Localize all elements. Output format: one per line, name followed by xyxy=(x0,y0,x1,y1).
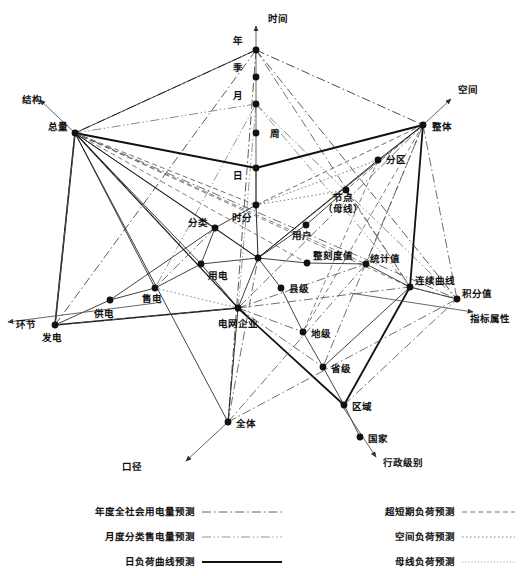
node-xianji[interactable] xyxy=(278,285,285,292)
diagram-edge xyxy=(215,228,258,258)
node-zongliang[interactable] xyxy=(72,130,79,137)
diagram-edge xyxy=(344,299,457,405)
node-label-zhengti: 整体 xyxy=(431,121,452,132)
diagram-edge xyxy=(256,50,457,299)
node-zhengkedu[interactable] xyxy=(304,260,311,267)
diagram-edge xyxy=(410,125,423,287)
node-label-yongdian: 用电 xyxy=(207,270,228,281)
diagram-edge xyxy=(307,263,366,264)
node-fadian[interactable] xyxy=(52,322,59,329)
diagram-edge xyxy=(55,308,238,325)
node-label-zhou: 周 xyxy=(270,129,280,139)
diagram-edge xyxy=(228,50,256,422)
axis-label-time: 时间 xyxy=(268,13,288,24)
node-label-shengji: 省级 xyxy=(330,363,351,374)
node-label-jiedian-sub: （母线） xyxy=(323,203,363,214)
node-shengji[interactable] xyxy=(320,364,327,371)
node-label-zhengkedu: 整刻度值 xyxy=(312,250,353,261)
legend-label-0-1: 月度分类售电量预测 xyxy=(104,531,195,542)
diagram-edge xyxy=(258,258,281,288)
diagram-edge xyxy=(75,50,256,133)
node-yue[interactable] xyxy=(253,101,260,108)
node-label-zongliang: 总量 xyxy=(48,121,68,132)
diagram-edge xyxy=(75,133,201,264)
node-ji[interactable] xyxy=(253,74,260,81)
node-label-dianwang: 电网企业 xyxy=(218,318,258,329)
node-fenlei[interactable] xyxy=(212,225,219,232)
diagram-edge xyxy=(423,125,457,299)
diagram-edge xyxy=(281,288,303,332)
legend-label-0-0: 年度全社会用电量预测 xyxy=(95,506,195,517)
diagram-edge xyxy=(256,160,378,205)
network-diagram: 时间结构空间环节指标属性口径行政级别年季月周日时分总量整体分区节点（母线）用户分… xyxy=(0,0,525,576)
diagram-edge xyxy=(75,133,228,422)
node-label-shoudian: 售电 xyxy=(142,293,162,304)
diagram-edge xyxy=(256,104,457,299)
node-yongdian[interactable] xyxy=(198,261,205,268)
diagram-edge xyxy=(344,287,410,405)
node-label-jifen: 积分值 xyxy=(462,288,492,299)
legend-label-1-1: 空间负荷预测 xyxy=(395,531,455,542)
node-shoudian[interactable] xyxy=(152,285,159,292)
nodes-layer xyxy=(52,47,461,441)
node-label-tongji: 统计值 xyxy=(370,253,400,264)
axis-label-structure: 结构 xyxy=(21,94,42,105)
node-label-ji: 季 xyxy=(232,62,243,73)
legend-label-1-2: 母线负荷预测 xyxy=(395,556,455,567)
node-label-quanti: 全体 xyxy=(235,418,256,429)
node-guojia[interactable] xyxy=(357,434,364,441)
node-diji[interactable] xyxy=(300,329,307,336)
node-label-ri: 日 xyxy=(233,171,243,181)
node-label-xianji: 县级 xyxy=(289,283,309,294)
node-label-fenlei: 分类 xyxy=(188,217,208,228)
legend-layer: 年度全社会用电量预测月度分类售电量预测日负荷曲线预测超短期负荷预测空间负荷预测母… xyxy=(95,506,515,567)
node-label-yue: 月 xyxy=(232,91,243,101)
node-dianwang[interactable] xyxy=(235,305,242,312)
node-label-diji: 地级 xyxy=(311,328,331,339)
node-label-fadian: 发电 xyxy=(41,332,62,343)
node-hub[interactable] xyxy=(255,255,262,262)
node-fenqu[interactable] xyxy=(375,157,382,164)
diagram-edge xyxy=(256,50,423,125)
node-zhengti[interactable] xyxy=(420,122,427,129)
node-nian[interactable] xyxy=(253,47,260,54)
node-yonghu[interactable] xyxy=(303,222,310,229)
figure-root: 时间结构空间环节指标属性口径行政级别年季月周日时分总量整体分区节点（母线）用户分… xyxy=(0,0,525,576)
node-shifen[interactable] xyxy=(253,202,260,209)
legend-label-1-0: 超短期负荷预测 xyxy=(384,506,455,517)
node-quyu[interactable] xyxy=(341,402,348,409)
axis-label-admin: 行政级别 xyxy=(382,457,423,468)
diagram-edge xyxy=(228,258,258,422)
node-jifen[interactable] xyxy=(454,296,461,303)
diagram-edge xyxy=(155,228,215,288)
diagram-edge xyxy=(238,258,258,308)
node-gongdian[interactable] xyxy=(107,297,114,304)
diagram-edge xyxy=(75,104,256,133)
diagram-edge xyxy=(238,287,410,308)
diagram-edge xyxy=(366,264,410,287)
node-label-jiedian: 节点 xyxy=(333,192,353,203)
node-label-yonghu: 用户 xyxy=(291,230,312,241)
axis-caliber xyxy=(186,422,228,461)
axis-label-space: 空间 xyxy=(458,84,478,95)
axis-label-stage: 环节 xyxy=(16,319,36,330)
diagram-edge xyxy=(258,225,306,258)
node-tongji[interactable] xyxy=(363,261,370,268)
node-label-guojia: 国家 xyxy=(368,433,388,444)
node-quanti[interactable] xyxy=(225,419,232,426)
node-label-fenqu: 分区 xyxy=(386,154,406,165)
node-label-quyu: 区域 xyxy=(352,401,372,412)
node-label-gongdian: 供电 xyxy=(93,308,114,319)
node-label-shifen: 时分 xyxy=(232,212,252,223)
node-ri[interactable] xyxy=(253,165,260,172)
node-label-lianxu: 连续曲线 xyxy=(415,275,455,286)
legend-label-0-2: 日负荷曲线预测 xyxy=(125,556,195,567)
diagram-edge xyxy=(155,288,238,308)
diagram-edge xyxy=(155,104,256,288)
diagram-edge xyxy=(201,228,215,264)
node-zhou[interactable] xyxy=(253,130,260,137)
node-lianxu[interactable] xyxy=(407,284,414,291)
axis-label-indicator: 指标属性 xyxy=(470,313,510,324)
diagram-edge xyxy=(201,258,258,264)
diagram-edge xyxy=(323,125,423,367)
